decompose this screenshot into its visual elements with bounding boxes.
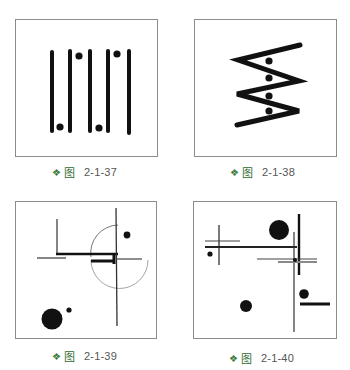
- diamond-bullet-icon: ❖: [230, 167, 239, 178]
- figure-number: 2-1-40: [261, 352, 294, 364]
- figure-number: 2-1-39: [84, 350, 117, 362]
- figure-caption: ❖ 图 2-1-38: [230, 164, 295, 180]
- figure-label: 图: [64, 348, 75, 364]
- figure-label: 图: [64, 164, 75, 180]
- figure-label: 图: [241, 350, 252, 366]
- figure-number: 2-1-37: [84, 166, 117, 178]
- figure-label: 图: [242, 164, 253, 180]
- zigzag-artwork: [195, 20, 338, 158]
- figure-frame: [194, 19, 337, 157]
- figure-caption: ❖ 图 2-1-39: [52, 348, 117, 364]
- diamond-bullet-icon: ❖: [229, 353, 238, 364]
- constructivist-artwork-a: [16, 202, 158, 340]
- figure-frame: [193, 201, 337, 339]
- figure-number: 2-1-38: [262, 166, 295, 178]
- figure-caption: ❖ 图 2-1-40: [229, 350, 294, 366]
- figure-frame: [15, 201, 157, 339]
- diamond-bullet-icon: ❖: [52, 167, 61, 178]
- figure-caption: ❖ 图 2-1-37: [52, 164, 117, 180]
- vertical-lines-artwork: [16, 20, 159, 158]
- constructivist-artwork-b: [194, 202, 338, 340]
- diamond-bullet-icon: ❖: [52, 351, 61, 362]
- figure-frame: [15, 19, 158, 157]
